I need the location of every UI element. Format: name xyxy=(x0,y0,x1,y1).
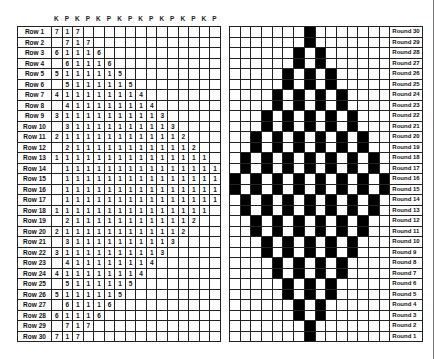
stitch-count-cell xyxy=(157,90,168,101)
stitch-count-cell xyxy=(210,48,221,59)
stitch-count-cell xyxy=(52,142,63,153)
stitch-count-cell xyxy=(168,310,179,321)
stitch-count-cell: 1 xyxy=(168,163,179,174)
stitch-count-cell: 1 xyxy=(189,163,200,174)
empty-cell xyxy=(251,37,262,48)
stitch-count-cell: 1 xyxy=(94,184,105,195)
empty-cell xyxy=(251,268,262,279)
stitch-count-cell: 1 xyxy=(83,205,94,216)
empty-cell xyxy=(368,237,379,248)
chart-round: Round 3 xyxy=(230,310,423,321)
filled-cell xyxy=(358,216,369,227)
chart-round: Round 6 xyxy=(230,279,423,290)
filled-cell xyxy=(336,90,347,101)
stitch-count-cell: 7 xyxy=(62,37,73,48)
stitch-count-cell: 1 xyxy=(157,195,168,206)
empty-cell xyxy=(326,184,337,195)
empty-cell xyxy=(347,142,358,153)
stitch-count-cell: 1 xyxy=(115,258,126,269)
stitch-count-cell: 1 xyxy=(125,142,136,153)
filled-cell xyxy=(315,48,326,59)
chart-round: Round 23 xyxy=(230,100,423,111)
stitch-count-cell: 5 xyxy=(62,79,73,90)
stitch-count-cell: 3 xyxy=(52,247,63,258)
stitch-count-cell: 1 xyxy=(125,205,136,216)
empty-cell xyxy=(368,289,379,300)
stitch-count-cell xyxy=(210,142,221,153)
stitch-count-cell xyxy=(210,331,221,342)
chart-round: Round 4 xyxy=(230,300,423,311)
stitch-count-cell: 1 xyxy=(83,48,94,59)
row-label: Row 6 xyxy=(18,79,52,90)
filled-cell xyxy=(336,100,347,111)
pattern-row: Row 29717 xyxy=(18,321,221,332)
stitch-count-cell: 1 xyxy=(73,289,84,300)
stitch-count-cell: 1 xyxy=(94,279,105,290)
empty-cell xyxy=(262,258,273,269)
stitch-count-cell: 6 xyxy=(94,310,105,321)
empty-cell xyxy=(347,258,358,269)
empty-cell xyxy=(304,132,315,143)
empty-cell xyxy=(347,132,358,143)
stitch-count-cell: 1 xyxy=(94,216,105,227)
stitch-count-cell xyxy=(178,237,189,248)
stitch-count-cell: 1 xyxy=(115,79,126,90)
row-label: Row 1 xyxy=(18,27,52,38)
stitch-count-cell xyxy=(210,37,221,48)
empty-cell xyxy=(294,247,305,258)
stitch-count-cell xyxy=(136,69,147,80)
filled-cell xyxy=(294,268,305,279)
empty-cell xyxy=(304,226,315,237)
stitch-count-cell: 1 xyxy=(125,153,136,164)
stitch-count-cell: 1 xyxy=(94,100,105,111)
pattern-row: Row 30717 xyxy=(18,331,221,342)
empty-cell xyxy=(315,331,326,342)
stitch-count-cell: 1 xyxy=(83,289,94,300)
stitch-count-cell xyxy=(157,331,168,342)
empty-cell xyxy=(379,237,390,248)
stitch-count-cell: 1 xyxy=(62,48,73,59)
stitch-count-cell: 1 xyxy=(178,195,189,206)
empty-cell xyxy=(379,69,390,80)
filled-cell xyxy=(315,216,326,227)
stitch-count-cell: 7 xyxy=(83,321,94,332)
empty-cell xyxy=(251,90,262,101)
round-label: Round 10 xyxy=(390,237,423,248)
empty-cell xyxy=(347,69,358,80)
stitch-count-cell: 1 xyxy=(178,163,189,174)
stitch-count-cell xyxy=(199,132,210,143)
stitch-count-cell: 1 xyxy=(136,195,147,206)
empty-cell xyxy=(304,268,315,279)
row-label: Row 22 xyxy=(18,247,52,258)
stitch-count-cell xyxy=(104,321,115,332)
empty-cell xyxy=(379,216,390,227)
chart-round: Round 21 xyxy=(230,121,423,132)
stitch-count-cell: 1 xyxy=(94,226,105,237)
filled-cell xyxy=(304,247,315,258)
stitch-count-cell: 1 xyxy=(146,132,157,143)
empty-cell xyxy=(262,310,273,321)
stitch-count-cell: 1 xyxy=(62,289,73,300)
filled-cell xyxy=(379,184,390,195)
empty-cell xyxy=(368,27,379,38)
filled-cell xyxy=(336,268,347,279)
stitch-count-cell xyxy=(199,111,210,122)
stitch-count-cell: 1 xyxy=(73,279,84,290)
filled-cell xyxy=(326,121,337,132)
stitch-count-cell: 1 xyxy=(157,237,168,248)
stitch-count-cell xyxy=(189,279,200,290)
empty-cell xyxy=(347,279,358,290)
filled-cell xyxy=(326,79,337,90)
stitch-count-cell xyxy=(178,69,189,80)
empty-cell xyxy=(251,79,262,90)
empty-cell xyxy=(358,58,369,69)
empty-cell xyxy=(262,321,273,332)
stitch-count-cell xyxy=(115,58,126,69)
row-label: Row 15 xyxy=(18,174,52,185)
stitch-count-cell: 5 xyxy=(52,69,63,80)
empty-cell xyxy=(304,300,315,311)
pattern-row: Row 24411111114 xyxy=(18,268,221,279)
stitch-count-cell: 1 xyxy=(104,195,115,206)
stitch-count-cell xyxy=(210,90,221,101)
stitch-count-cell: 1 xyxy=(146,216,157,227)
